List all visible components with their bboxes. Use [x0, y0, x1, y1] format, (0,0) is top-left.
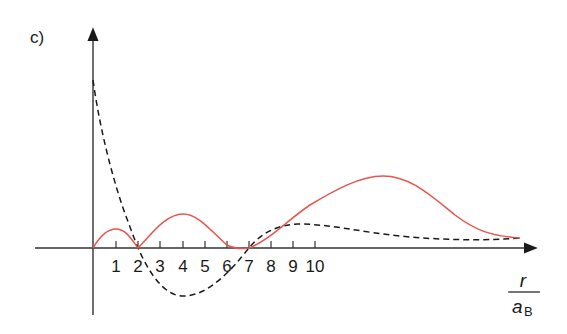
tick-label: 1 — [111, 257, 120, 276]
tick-label: 9 — [288, 257, 297, 276]
tick-label: 4 — [178, 257, 187, 276]
tick-label: 7 — [244, 257, 253, 276]
chart-canvas: 1 2 3 4 5 6 7 8 9 10 r a B — [0, 0, 567, 334]
series-solid-curve — [93, 176, 520, 249]
tick-label: 5 — [200, 257, 209, 276]
x-tick-labels: 1 2 3 4 5 6 7 8 9 10 — [111, 257, 324, 276]
x-axis-label: r a B — [508, 270, 540, 319]
x-label-numerator: r — [520, 270, 527, 291]
x-label-subscript: B — [524, 304, 533, 319]
tick-label: 10 — [306, 257, 325, 276]
tick-label: 8 — [266, 257, 275, 276]
x-ticks — [116, 241, 315, 248]
x-label-denominator: a — [512, 296, 523, 317]
tick-label: 3 — [155, 257, 164, 276]
tick-label: 2 — [133, 257, 142, 276]
